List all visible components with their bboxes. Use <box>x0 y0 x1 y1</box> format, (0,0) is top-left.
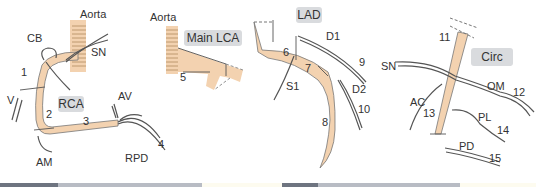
bottom-strip-light-2 <box>318 183 460 187</box>
svg-text:Aorta: Aorta <box>80 8 107 20</box>
coronary-diagram: RCA Aorta CB SN 1 V 2 3 AV AM RPD 4 Main… <box>0 0 536 187</box>
lca-tag: Main LCA <box>187 31 240 45</box>
lca-panel: Main LCA Aorta 5 <box>150 11 243 90</box>
bottom-strip-dark-2 <box>282 183 318 187</box>
svg-text:PL: PL <box>478 111 491 123</box>
svg-text:AM: AM <box>36 156 53 168</box>
circ-panel: Circ 11 SN OM 12 AC 13 PL 14 PD 15 <box>381 18 534 166</box>
svg-text:13: 13 <box>423 107 435 119</box>
svg-text:3: 3 <box>83 115 89 127</box>
svg-text:D2: D2 <box>352 83 366 95</box>
svg-text:12: 12 <box>513 86 525 98</box>
circ-vessel <box>435 32 468 134</box>
svg-text:OM: OM <box>487 80 505 92</box>
rca-panel: RCA Aorta CB SN 1 V 2 3 AV AM RPD 4 <box>7 8 165 168</box>
bottom-strip-cream-2 <box>460 183 536 187</box>
lad-tag: LAD <box>297 8 321 22</box>
svg-text:SN: SN <box>91 46 106 58</box>
svg-text:14: 14 <box>497 124 509 136</box>
svg-text:PD: PD <box>459 140 474 152</box>
lad-panel: LAD D1 6 7 S1 9 D2 10 8 <box>254 7 370 168</box>
lad-vessel <box>254 22 335 168</box>
svg-text:10: 10 <box>358 103 370 115</box>
s1-branch <box>274 56 294 100</box>
svg-text:5: 5 <box>180 71 186 83</box>
svg-text:11: 11 <box>439 31 450 43</box>
am-branch <box>38 136 52 152</box>
lca-vessel <box>178 48 243 90</box>
svg-text:CB: CB <box>27 32 42 44</box>
svg-text:15: 15 <box>489 152 501 164</box>
svg-text:2: 2 <box>46 108 52 120</box>
svg-text:S1: S1 <box>286 80 299 92</box>
svg-text:7: 7 <box>305 62 311 74</box>
svg-text:1: 1 <box>21 66 27 78</box>
bottom-strip-dark-1 <box>0 183 58 187</box>
bottom-strip-light-1 <box>58 183 202 187</box>
svg-text:Aorta: Aorta <box>150 11 177 23</box>
circ-tag: Circ <box>481 50 502 64</box>
bottom-strip-cream-1 <box>202 183 282 187</box>
rca-tag: RCA <box>58 97 83 111</box>
svg-text:D1: D1 <box>326 30 340 42</box>
svg-text:AV: AV <box>118 90 133 102</box>
svg-text:RPD: RPD <box>125 152 148 164</box>
svg-text:6: 6 <box>283 46 289 58</box>
svg-text:V: V <box>7 94 15 106</box>
svg-text:9: 9 <box>359 56 365 68</box>
svg-text:SN: SN <box>381 60 396 72</box>
svg-text:4: 4 <box>158 138 164 150</box>
svg-text:8: 8 <box>322 116 328 128</box>
